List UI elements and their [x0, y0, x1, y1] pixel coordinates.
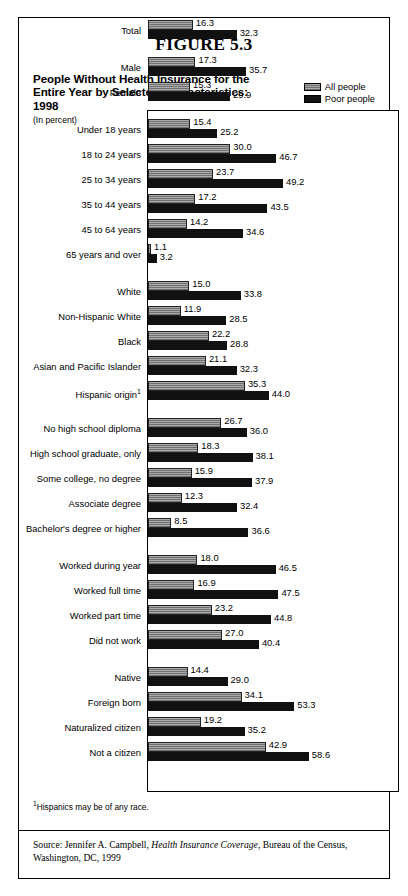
bar-value-poor-people: 28.8	[227, 338, 248, 349]
bar-poor-people	[148, 254, 157, 263]
row-label: Worked part time	[19, 603, 141, 628]
bar-value-poor-people: 36.6	[248, 525, 269, 536]
bar-value-poor-people: 35.7	[246, 64, 267, 75]
bar-all-people	[148, 518, 171, 527]
bar-value-all-people: 14.4	[188, 664, 209, 675]
bar-poor-people	[148, 366, 237, 375]
bar-value-poor-people: 49.2	[283, 176, 304, 187]
chart-row: High school graduate, only18.338.1	[19, 441, 391, 466]
row-label: White	[19, 279, 141, 304]
bar-poor-people	[148, 428, 247, 437]
bar-poor-people	[148, 590, 278, 599]
bar-all-people	[148, 667, 188, 676]
footnote-text: Hispanics may be of any race.	[37, 802, 149, 812]
row-label: Under 18 years	[19, 117, 141, 142]
bar-all-people	[148, 20, 193, 29]
row-label: Did not work	[19, 628, 141, 653]
chart-rows: Total16.332.3Male17.335.7Female15.329.9U…	[19, 18, 391, 700]
bar-value-poor-people: 29.0	[228, 674, 249, 685]
chart-row: 65 years and over1.13.2	[19, 242, 391, 267]
row-label: Not a citizen	[19, 740, 141, 765]
bar-value-poor-people: 34.6	[243, 226, 264, 237]
row-label: Native	[19, 665, 141, 690]
bar-poor-people	[148, 727, 245, 736]
bar-value-poor-people: 43.5	[267, 201, 288, 212]
bar-value-all-people: 30.0	[230, 141, 251, 152]
bar-poor-people	[148, 391, 269, 400]
bar-value-poor-people: 40.4	[259, 637, 280, 648]
row-label: 35 to 44 years	[19, 192, 141, 217]
chart-row: Native14.429.0	[19, 665, 391, 690]
bar-all-people	[148, 119, 190, 128]
bar-value-all-people: 27.0	[222, 627, 243, 638]
row-label: 65 years and over	[19, 242, 141, 267]
bar-all-people	[148, 331, 209, 340]
bar-value-poor-people: 44.0	[269, 388, 290, 399]
bar-value-poor-people: 32.4	[237, 500, 258, 511]
row-label: Foreign born	[19, 690, 141, 715]
bar-value-poor-people: 25.2	[217, 126, 238, 137]
bar-value-all-people: 15.3	[190, 79, 211, 90]
chart-row: Bachelor's degree or higher8.536.6	[19, 516, 391, 541]
source-note: Source: Jennifer A. Campbell, Health Ins…	[33, 839, 378, 864]
bar-value-poor-people: 32.3	[237, 363, 258, 374]
row-label: Asian and Pacific Islander	[19, 354, 141, 379]
bar-value-all-people: 14.2	[187, 216, 208, 227]
bar-value-all-people: 18.3	[198, 440, 219, 451]
chart-row: 45 to 64 years14.234.6	[19, 217, 391, 242]
bar-all-people	[148, 555, 197, 564]
chart-row: Foreign born34.153.3	[19, 690, 391, 715]
bar-value-poor-people: 46.5	[276, 562, 297, 573]
chart-row: No high school diploma26.736.0	[19, 416, 391, 441]
bar-value-all-people: 15.0	[189, 278, 210, 289]
bar-value-all-people: 21.1	[206, 353, 227, 364]
bar-value-all-people: 16.3	[193, 17, 214, 28]
bar-poor-people	[148, 503, 237, 512]
bar-value-all-people: 42.9	[266, 739, 287, 750]
bar-all-people	[148, 356, 206, 365]
chart-row: White15.033.8	[19, 279, 391, 304]
chart-row: Female15.329.9	[19, 80, 391, 105]
chart-row: Naturalized citizen19.235.2	[19, 715, 391, 740]
chart-row: Black22.228.8	[19, 329, 391, 354]
bar-poor-people	[148, 67, 246, 76]
bar-all-people	[148, 468, 192, 477]
bar-value-all-people: 23.7	[213, 166, 234, 177]
chart-row: 18 to 24 years30.046.7	[19, 142, 391, 167]
bar-value-all-people: 17.2	[195, 191, 216, 202]
bar-value-poor-people: 29.9	[230, 89, 251, 100]
row-label: Hispanic origin1	[19, 379, 141, 407]
row-label: Male	[19, 55, 141, 80]
bar-all-people	[148, 580, 194, 589]
row-label: Female	[19, 80, 141, 105]
bar-poor-people	[148, 478, 252, 487]
bar-all-people	[148, 493, 182, 502]
bar-all-people	[148, 443, 198, 452]
bar-poor-people	[148, 204, 267, 213]
bar-poor-people	[148, 179, 283, 188]
bar-value-poor-people: 38.1	[253, 450, 274, 461]
source-prefix: Source: Jennifer A. Campbell,	[33, 839, 151, 850]
chart-row: 35 to 44 years17.243.5	[19, 192, 391, 217]
bar-value-poor-people: 36.0	[247, 425, 268, 436]
row-label: Naturalized citizen	[19, 715, 141, 740]
bar-value-all-people: 35.3	[245, 378, 266, 389]
bar-all-people	[148, 219, 187, 228]
bar-all-people	[148, 194, 195, 203]
bar-value-poor-people: 28.5	[226, 313, 247, 324]
bar-all-people	[148, 381, 245, 390]
bar-all-people	[148, 717, 201, 726]
chart-row: Not a citizen42.958.6	[19, 740, 391, 765]
bar-all-people	[148, 742, 266, 751]
row-label: No high school diploma	[19, 416, 141, 441]
row-label: Worked during year	[19, 553, 141, 578]
source-publication: Health Insurance Coverage	[151, 839, 258, 850]
chart-row: Worked part time23.244.8	[19, 603, 391, 628]
bar-value-all-people: 18.0	[197, 552, 218, 563]
bar-poor-people	[148, 528, 248, 537]
bar-value-poor-people: 47.5	[278, 587, 299, 598]
chart-row: Asian and Pacific Islander21.132.3	[19, 354, 391, 379]
chart-row: Male17.335.7	[19, 55, 391, 80]
bar-value-all-people: 15.9	[192, 465, 213, 476]
bar-all-people	[148, 692, 242, 701]
